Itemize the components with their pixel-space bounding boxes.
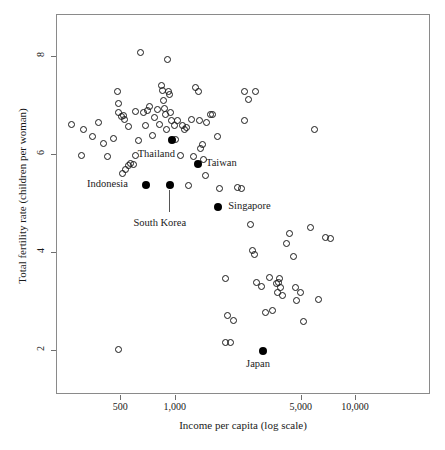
- data-point: [307, 224, 314, 231]
- data-point: [251, 251, 258, 258]
- data-point: [230, 317, 237, 324]
- data-point: [161, 105, 168, 112]
- data-point: [121, 116, 128, 123]
- highlighted-data-point: [259, 347, 267, 355]
- data-point: [160, 97, 167, 104]
- highlighted-data-point: [214, 203, 222, 211]
- data-point: [277, 284, 284, 291]
- y-axis-tick-label: 2: [35, 338, 46, 358]
- annotation-label-japan: Japan: [246, 358, 270, 369]
- data-point: [177, 152, 184, 159]
- data-point: [158, 82, 165, 89]
- data-point: [311, 126, 318, 133]
- data-point: [146, 103, 153, 110]
- data-point: [80, 126, 87, 133]
- y-axis-tick-mark: [51, 350, 56, 351]
- data-point: [247, 221, 254, 228]
- data-point: [135, 137, 142, 144]
- data-point: [181, 126, 188, 133]
- data-point: [227, 339, 234, 346]
- data-point: [283, 240, 290, 247]
- highlighted-data-point: [194, 160, 202, 168]
- y-axis-tick-mark: [51, 252, 56, 253]
- data-point: [253, 279, 260, 286]
- data-point: [127, 160, 134, 167]
- x-axis-tick-label: 1,000: [148, 401, 202, 412]
- data-point: [183, 124, 190, 131]
- data-point: [286, 230, 293, 237]
- data-point: [234, 184, 241, 191]
- data-point: [297, 289, 304, 296]
- scatter-plot-figure: 8642 5001,0005,00010,000 Total fertility…: [0, 0, 445, 450]
- y-axis-tick-label: 4: [35, 240, 46, 260]
- data-point: [327, 235, 334, 242]
- data-point: [115, 100, 122, 107]
- data-point: [300, 318, 307, 325]
- data-point: [159, 87, 166, 94]
- highlighted-data-point: [166, 181, 174, 189]
- data-point: [179, 122, 186, 129]
- x-axis-tick-mark: [175, 395, 176, 400]
- highlighted-data-point: [168, 136, 176, 144]
- data-point: [165, 88, 172, 95]
- data-point: [122, 166, 129, 173]
- data-point: [144, 107, 151, 114]
- data-point: [100, 140, 107, 147]
- data-point: [188, 116, 195, 123]
- data-point: [115, 346, 122, 353]
- data-point: [266, 274, 273, 281]
- data-point: [192, 84, 199, 91]
- annotation-label-taiwan: Taiwan: [206, 157, 237, 168]
- data-point: [245, 96, 252, 103]
- data-point: [162, 111, 169, 118]
- data-point: [222, 339, 229, 346]
- data-point: [241, 88, 248, 95]
- data-point: [185, 182, 192, 189]
- data-point: [168, 117, 175, 124]
- data-point: [174, 117, 181, 124]
- y-axis-tick-label: 8: [35, 44, 46, 64]
- data-point: [172, 136, 179, 143]
- data-point: [199, 141, 206, 148]
- data-point: [209, 111, 216, 118]
- data-point: [224, 312, 231, 319]
- data-point: [258, 283, 265, 290]
- data-point: [89, 133, 96, 140]
- data-point: [262, 309, 269, 316]
- data-point: [207, 111, 214, 118]
- x-axis-tick-mark: [120, 395, 121, 400]
- data-point: [167, 109, 174, 116]
- data-point: [171, 122, 178, 129]
- data-point: [273, 280, 280, 287]
- data-point: [315, 296, 322, 303]
- x-axis-title: Income per capita (log scale): [56, 419, 430, 431]
- data-point: [95, 119, 102, 126]
- data-point: [195, 88, 202, 95]
- data-point: [166, 91, 173, 98]
- data-point: [275, 279, 282, 286]
- highlighted-data-point: [142, 181, 150, 189]
- data-point: [154, 106, 161, 113]
- data-point: [130, 161, 137, 168]
- data-point: [279, 292, 286, 299]
- data-point: [216, 185, 223, 192]
- y-axis-tick-mark: [51, 154, 56, 155]
- data-point: [249, 247, 256, 254]
- data-point: [274, 289, 281, 296]
- annotation-label-singapore: Singapore: [228, 200, 271, 211]
- data-point: [197, 145, 204, 152]
- x-axis-tick-mark: [301, 395, 302, 400]
- data-point: [137, 49, 144, 56]
- data-point: [164, 56, 171, 63]
- data-point: [241, 117, 248, 124]
- data-point: [132, 108, 139, 115]
- data-point: [190, 153, 197, 160]
- data-point: [156, 121, 163, 128]
- data-point: [202, 172, 209, 179]
- annotation-label-south-korea: South Korea: [133, 217, 186, 228]
- data-point: [142, 122, 149, 129]
- data-point: [276, 275, 283, 282]
- annotation-label-indonesia: Indonesia: [87, 178, 128, 189]
- data-point: [120, 112, 127, 119]
- data-point: [78, 152, 85, 159]
